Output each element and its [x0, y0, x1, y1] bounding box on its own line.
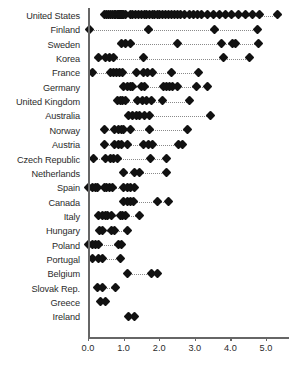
data-point-marker	[217, 39, 227, 49]
data-point-marker	[85, 24, 95, 34]
category-row: Australia	[0, 109, 294, 123]
data-point-marker	[183, 125, 193, 135]
category-row: Hungary	[0, 224, 294, 238]
data-strip	[88, 196, 294, 210]
category-label-finland: Finland	[0, 23, 80, 37]
x-axis-tick-label: 4.0	[210, 343, 250, 353]
plot-area: United StatesFinlandSwedenKoreaFranceGer…	[0, 0, 294, 367]
category-row: Germany	[0, 81, 294, 95]
category-row: United Kingdom	[0, 95, 294, 109]
category-row: Slovak Rep.	[0, 282, 294, 296]
x-axis-tick-label: 5.0	[246, 343, 286, 353]
data-point-marker	[161, 153, 171, 163]
data-strip	[88, 310, 294, 324]
data-strip	[88, 38, 294, 52]
data-strip	[88, 95, 294, 109]
data-strip	[88, 282, 294, 296]
category-row: Portugal	[0, 253, 294, 267]
category-label-netherlands: Netherlands	[0, 167, 80, 181]
data-point-marker	[185, 96, 195, 106]
data-point-marker	[144, 24, 154, 34]
category-label-belgium: Belgium	[0, 267, 80, 281]
category-row: Finland	[0, 23, 294, 37]
x-axis-tick-label: 1.0	[104, 343, 144, 353]
data-point-marker	[254, 39, 264, 49]
category-row: United States	[0, 9, 294, 23]
data-point-marker	[163, 196, 173, 206]
data-strip	[88, 81, 294, 95]
data-point-marker	[123, 268, 133, 278]
category-label-korea: Korea	[0, 52, 80, 66]
data-point-marker	[172, 39, 182, 49]
category-label-germany: Germany	[0, 81, 80, 95]
data-point-marker	[126, 39, 136, 49]
data-point-marker	[111, 283, 121, 293]
category-row: Netherlands	[0, 167, 294, 181]
data-strip	[88, 109, 294, 123]
data-strip	[88, 267, 294, 281]
category-label-italy: Italy	[0, 210, 80, 224]
data-strip	[88, 66, 294, 80]
x-axis-tick-label: 2.0	[139, 343, 179, 353]
data-strip	[88, 9, 294, 23]
data-point-marker	[88, 153, 98, 163]
data-point-marker	[125, 125, 135, 135]
x-axis-tick	[266, 337, 267, 341]
data-strip	[88, 239, 294, 253]
category-label-united-kingdom: United Kingdom	[0, 95, 80, 109]
data-strip	[88, 167, 294, 181]
data-point-marker	[252, 24, 262, 34]
data-point-marker	[144, 125, 154, 135]
data-point-marker	[129, 311, 139, 321]
data-point-marker	[145, 153, 155, 163]
data-strip	[88, 296, 294, 310]
data-point-marker	[152, 196, 162, 206]
category-label-canada: Canada	[0, 196, 80, 210]
data-point-marker	[193, 67, 203, 77]
y-axis-line	[88, 8, 90, 338]
data-point-marker	[99, 139, 109, 149]
x-axis-tick	[124, 337, 125, 341]
category-label-czech-republic: Czech Republic	[0, 153, 80, 167]
category-row: Canada	[0, 196, 294, 210]
range-connector	[99, 59, 250, 61]
category-label-australia: Australia	[0, 109, 80, 123]
category-row: Sweden	[0, 38, 294, 52]
dot-plot-figure: United StatesFinlandSwedenKoreaFranceGer…	[0, 0, 294, 367]
data-strip	[88, 253, 294, 267]
category-label-greece: Greece	[0, 296, 80, 310]
category-row: Czech Republic	[0, 153, 294, 167]
data-point-marker	[218, 53, 228, 63]
category-label-ireland: Ireland	[0, 310, 80, 324]
x-axis-line	[88, 337, 289, 339]
data-point-marker	[138, 53, 148, 63]
x-axis-tick	[159, 337, 160, 341]
data-point-marker	[206, 110, 216, 120]
category-row: Spain	[0, 181, 294, 195]
category-row: France	[0, 66, 294, 80]
data-strip	[88, 181, 294, 195]
data-strip	[88, 153, 294, 167]
data-point-marker	[209, 24, 219, 34]
data-point-marker	[157, 96, 167, 106]
data-strip	[88, 124, 294, 138]
data-point-marker	[115, 254, 125, 264]
category-label-hungary: Hungary	[0, 224, 80, 238]
data-point-marker	[192, 82, 202, 92]
category-label-austria: Austria	[0, 138, 80, 152]
category-row: Norway	[0, 124, 294, 138]
category-row: Greece	[0, 296, 294, 310]
data-point-marker	[202, 82, 212, 92]
category-row: Belgium	[0, 267, 294, 281]
category-label-france: France	[0, 66, 80, 80]
x-axis-tick	[88, 337, 89, 341]
data-point-marker	[167, 67, 177, 77]
data-strip	[88, 52, 294, 66]
x-axis-tick-label: 3.0	[175, 343, 215, 353]
category-row: Poland	[0, 239, 294, 253]
data-point-marker	[152, 268, 162, 278]
data-strip	[88, 224, 294, 238]
category-label-portugal: Portugal	[0, 253, 80, 267]
category-label-poland: Poland	[0, 239, 80, 253]
data-strip	[88, 210, 294, 224]
